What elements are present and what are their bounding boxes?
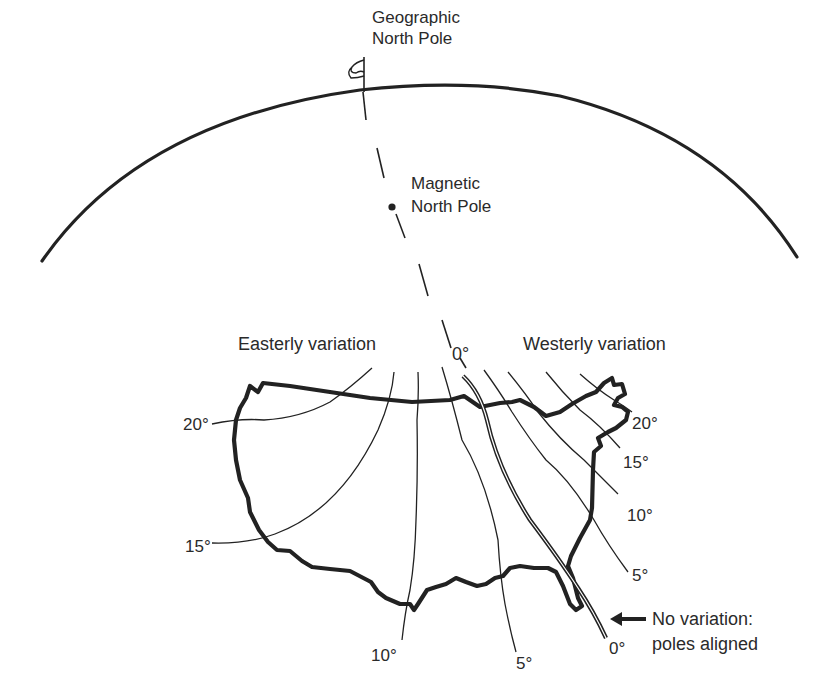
agonic-line-0: [463, 376, 606, 638]
agonic-top-label: 0°: [452, 344, 469, 365]
no-variation-label-line1: No variation:: [652, 609, 753, 630]
easterly-variation-label: Easterly variation: [238, 334, 376, 355]
isogonic-label-east-10: 10°: [371, 645, 397, 666]
arrow-left-icon: [610, 612, 646, 626]
geographic-pole-label-line1: Geographic: [372, 7, 460, 28]
magnetic-pole-label-line2: North Pole: [411, 196, 491, 217]
isogonic-label-west-20: 20°: [632, 413, 658, 434]
isogonic-label-agonic-0: 0°: [609, 638, 625, 659]
isogonic-label-west-15: 15°: [623, 452, 649, 473]
pole-alignment-dashed-line: [363, 92, 466, 368]
isogonic-line-west-15: [546, 372, 620, 448]
no-variation-label-line2: poles aligned: [652, 634, 758, 655]
westerly-variation-label: Westerly variation: [523, 334, 666, 355]
isogonic-label-west-5: 5°: [632, 565, 648, 586]
magnetic-pole-dot: [388, 203, 395, 210]
isogonic-label-west-10: 10°: [627, 505, 653, 526]
isogonic-label-east-20: 20°: [183, 414, 209, 435]
isogonic-line-east-10: [402, 372, 418, 640]
flag-icon: [349, 57, 364, 92]
isogonic-line-east-5: [442, 367, 516, 652]
magnetic-pole-label-line1: Magnetic: [411, 173, 480, 194]
isogonic-label-east-15: 15°: [185, 536, 211, 557]
isogonic-label-east-5: 5°: [516, 653, 532, 674]
geographic-pole-label-line2: North Pole: [372, 28, 452, 49]
variation-diagram: [0, 0, 816, 698]
